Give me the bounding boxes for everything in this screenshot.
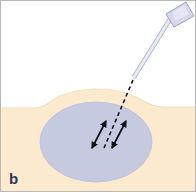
panel-label: b — [9, 171, 18, 186]
figure-panel: b — [0, 0, 196, 192]
illustration-canvas — [0, 0, 196, 192]
